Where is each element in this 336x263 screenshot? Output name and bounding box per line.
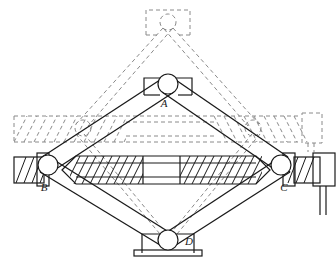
phantom-lead-screw <box>14 116 300 142</box>
joint-C-pivot <box>271 155 291 175</box>
drive-motor-block <box>313 153 335 186</box>
arm-A-B-edge-inner <box>56 92 174 169</box>
phantom-configuration-group <box>14 10 322 234</box>
joint-labels: A B C D <box>41 97 289 247</box>
phantom-arms <box>76 28 260 234</box>
phantom-arm-A-C <box>173 28 259 124</box>
jack-diagram-canvas: A B C D <box>0 0 336 263</box>
right-shaft-hatch <box>288 157 314 183</box>
lead-screw-thread-left <box>66 156 152 184</box>
scissor-jack-figure: A B C D <box>0 0 336 263</box>
power-lead-wires <box>320 186 326 215</box>
joint-label-D: D <box>184 235 193 247</box>
joint-label-B: B <box>41 181 48 193</box>
phantom-arm-A-B <box>76 28 163 124</box>
joint-B-pivot <box>38 155 58 175</box>
base-plate-foot <box>134 250 202 256</box>
phantom-drive-motor-block <box>302 113 322 152</box>
phantom-joint-A-raised <box>160 14 176 30</box>
arm-C-D-edge-inner <box>164 160 276 234</box>
joint-label-A: A <box>160 97 168 109</box>
arm-A-C-edge-outer <box>170 76 288 157</box>
lead-screw-thread-right <box>176 156 270 184</box>
joint-label-C: C <box>280 181 288 193</box>
joint-A-pivot <box>158 74 178 94</box>
joint-D-pivot <box>158 230 178 250</box>
